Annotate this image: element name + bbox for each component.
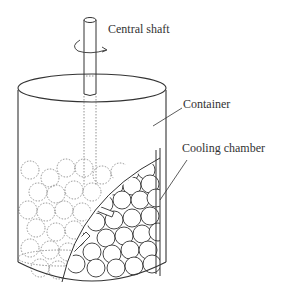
central-shaft xyxy=(84,18,96,96)
rotation-arrow-icon xyxy=(74,40,107,53)
cooling-chamber-label: Cooling chamber xyxy=(182,141,265,155)
diagram: Central shaft Container Cooling chamber xyxy=(0,0,286,296)
central-shaft-label: Central shaft xyxy=(108,22,170,36)
cutaway-spheres xyxy=(67,161,167,277)
container-label: Container xyxy=(183,97,230,111)
shaft-hidden-lines xyxy=(84,76,96,185)
